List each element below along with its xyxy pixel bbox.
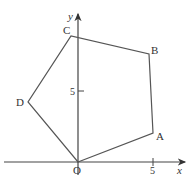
x-tick-label: 5: [150, 165, 155, 176]
vertex-label-b: B: [151, 44, 158, 56]
vertex-label-d: D: [16, 96, 24, 108]
y-tick-label: 5: [70, 86, 75, 97]
pentagon-OABCD: [28, 36, 153, 162]
diagram-canvas: y x O 5 5 A B C D: [0, 0, 192, 180]
y-axis-label: y: [67, 10, 73, 22]
origin-label: O: [73, 164, 81, 176]
x-axis-label: x: [176, 164, 182, 176]
vertex-label-a: A: [156, 130, 164, 142]
vertex-label-c: C: [63, 24, 70, 36]
